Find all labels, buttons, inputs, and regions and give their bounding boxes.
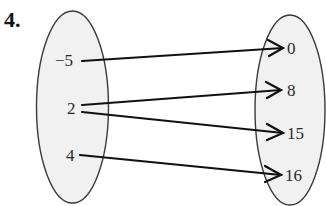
range-value: 16: [285, 166, 302, 185]
range-value: 8: [287, 81, 296, 100]
domain-value: 2: [67, 99, 76, 118]
mapping-arrow: [82, 82, 281, 105]
domain-value: −5: [55, 51, 73, 70]
mapping-arrow: [80, 155, 281, 182]
domain-value: 4: [66, 146, 75, 165]
mapping-arrow: [82, 112, 283, 140]
mapping-diagram: 4. −5 2 4 0 8 15 16: [0, 0, 326, 206]
range-value: 0: [287, 39, 296, 58]
mapping-arrow: [82, 40, 283, 61]
range-value: 15: [287, 124, 304, 143]
problem-number: 4.: [4, 7, 21, 32]
